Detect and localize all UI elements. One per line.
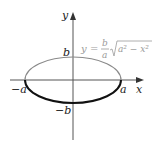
neg-x-intercept-label: −a: [11, 83, 27, 96]
equation-radicand: a² − x²: [118, 44, 149, 54]
pos-y-intercept-label: b: [63, 46, 70, 59]
neg-y-intercept-label: −b: [55, 104, 71, 117]
equation-fraction-numerator: b: [102, 38, 108, 48]
equation-fraction-denominator: a: [102, 50, 107, 60]
y-axis-label: y: [61, 9, 69, 22]
ellipse-diagram: y x b −b −a a y = b a a² − x²: [0, 0, 161, 153]
pos-x-intercept-label: a: [120, 83, 127, 96]
equation: y = b a a² − x²: [80, 38, 152, 60]
equation-equals: =: [90, 43, 98, 54]
y-axis-arrow-icon: [70, 12, 76, 20]
x-axis-label: x: [136, 83, 143, 96]
equation-lhs: y: [80, 43, 87, 54]
